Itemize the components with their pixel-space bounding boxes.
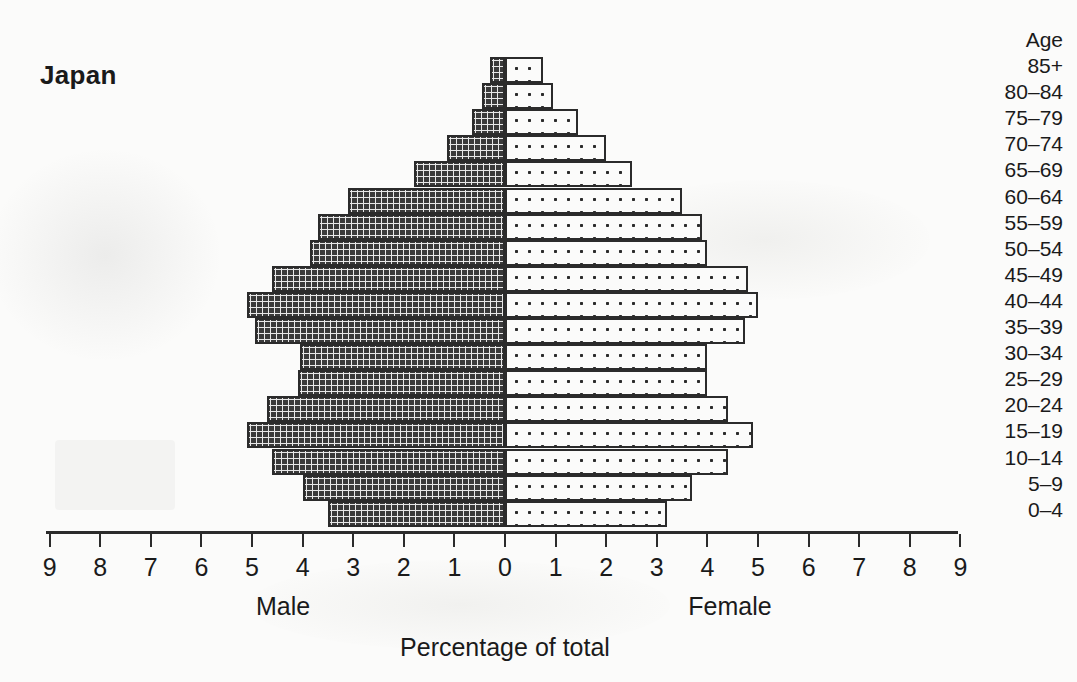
bar-male: [255, 318, 505, 344]
bar-male: [310, 240, 505, 266]
bar-female: [505, 370, 707, 396]
age-label: 70–74: [1005, 132, 1063, 156]
bar-male: [414, 161, 505, 187]
bar-female: [505, 57, 543, 83]
x-axis-tick: [251, 534, 253, 547]
bar-male: [447, 135, 505, 161]
x-axis-tick: [555, 534, 557, 547]
x-axis-tick-label: 7: [144, 553, 158, 582]
male-axis-caption: Male: [256, 592, 310, 621]
bar-male: [328, 501, 505, 527]
bar-male: [348, 188, 505, 214]
x-axis-tick: [99, 534, 101, 547]
bar-female: [505, 135, 606, 161]
age-label: 50–54: [1005, 237, 1063, 261]
x-axis-tick: [352, 534, 354, 547]
bar-female: [505, 344, 707, 370]
age-label: 85+: [1027, 54, 1063, 78]
bar-female: [505, 501, 667, 527]
x-axis-tick-label: 5: [245, 553, 259, 582]
x-axis-tick: [858, 534, 860, 547]
x-axis-tick-label: 8: [93, 553, 107, 582]
age-label: 0–4: [1028, 498, 1063, 522]
bar-female: [505, 83, 553, 109]
population-pyramid-chart: Japan Age 85+80–8475–7970–7465–6960–6455…: [0, 0, 1077, 682]
x-axis-tick-label: 2: [397, 553, 411, 582]
x-axis-tick-label: 1: [447, 553, 461, 582]
bar-female: [505, 475, 692, 501]
x-axis-tick-label: 9: [953, 553, 967, 582]
age-label: 10–14: [1005, 446, 1063, 470]
bar-male: [300, 344, 505, 370]
age-label: 20–24: [1005, 393, 1063, 417]
bar-female: [505, 266, 748, 292]
x-axis-tick: [808, 534, 810, 547]
x-axis-tick: [909, 534, 911, 547]
x-axis-tick: [403, 534, 405, 547]
x-axis-tick-label: 8: [903, 553, 917, 582]
bar-female: [505, 188, 682, 214]
bar-male: [272, 449, 505, 475]
age-label: 15–19: [1005, 419, 1063, 443]
x-axis-tick-label: 7: [852, 553, 866, 582]
bar-female: [505, 214, 702, 240]
x-axis-tick: [757, 534, 759, 547]
bar-female: [505, 292, 758, 318]
x-axis-tick: [605, 534, 607, 547]
x-axis-line: [46, 531, 958, 534]
x-axis-tick-label: 2: [599, 553, 613, 582]
x-axis-tick: [200, 534, 202, 547]
x-axis-tick-label: 3: [650, 553, 664, 582]
bar-male: [303, 475, 505, 501]
x-axis-tick: [959, 534, 961, 547]
age-label: 35–39: [1005, 315, 1063, 339]
bar-female: [505, 396, 728, 422]
x-axis-tick-label: 9: [43, 553, 57, 582]
x-axis-tick-label: 6: [194, 553, 208, 582]
x-axis-tick: [150, 534, 152, 547]
x-axis-tick: [453, 534, 455, 547]
bar-female: [505, 240, 707, 266]
age-label: 5–9: [1028, 472, 1063, 496]
bar-male: [490, 57, 505, 83]
bar-male: [482, 83, 505, 109]
bar-female: [505, 318, 745, 344]
bar-male: [298, 370, 505, 396]
x-axis-tick-label: 6: [802, 553, 816, 582]
x-axis-tick: [302, 534, 304, 547]
chart-title: Japan: [40, 60, 117, 91]
female-axis-caption: Female: [688, 592, 771, 621]
age-label: 25–29: [1005, 367, 1063, 391]
x-axis-title: Percentage of total: [400, 633, 610, 662]
bar-male: [247, 422, 505, 448]
age-label: 60–64: [1005, 185, 1063, 209]
age-label: 30–34: [1005, 341, 1063, 365]
x-axis-tick: [656, 534, 658, 547]
bar-female: [505, 449, 728, 475]
x-axis-tick-label: 3: [346, 553, 360, 582]
bar-male: [472, 109, 505, 135]
bar-male: [272, 266, 505, 292]
age-label: 75–79: [1005, 106, 1063, 130]
bar-male: [267, 396, 505, 422]
age-label: 80–84: [1005, 80, 1063, 104]
x-axis-tick-label: 4: [700, 553, 714, 582]
x-axis-tick: [706, 534, 708, 547]
x-axis-tick: [49, 534, 51, 547]
bar-male: [318, 214, 505, 240]
age-label: 65–69: [1005, 158, 1063, 182]
x-axis-tick-label: 5: [751, 553, 765, 582]
age-label: 55–59: [1005, 211, 1063, 235]
age-axis-header: Age: [1026, 28, 1063, 52]
x-axis-tick: [504, 534, 506, 547]
age-label: 45–49: [1005, 263, 1063, 287]
age-label: 40–44: [1005, 289, 1063, 313]
bar-female: [505, 422, 753, 448]
x-axis-tick-label: 0: [498, 553, 512, 582]
x-axis-tick-label: 1: [549, 553, 563, 582]
bar-male: [247, 292, 505, 318]
x-axis-tick-label: 4: [296, 553, 310, 582]
bar-female: [505, 161, 632, 187]
bar-female: [505, 109, 578, 135]
